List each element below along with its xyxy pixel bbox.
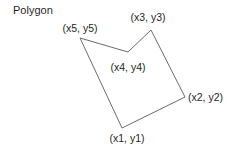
vertex-label-x5: (x5, y5)	[62, 23, 97, 34]
vertex-label-x1: (x1, y1)	[109, 133, 144, 144]
vertex-label-x4: (x4, y4)	[110, 62, 145, 73]
vertex-label-x3: (x3, y3)	[130, 12, 165, 23]
vertex-label-x2: (x2, y2)	[188, 92, 223, 103]
polygon-diagram: Polygon (x1, y1) (x2, y2) (x3, y3) (x4, …	[0, 0, 236, 155]
polygon-outline	[80, 30, 185, 128]
